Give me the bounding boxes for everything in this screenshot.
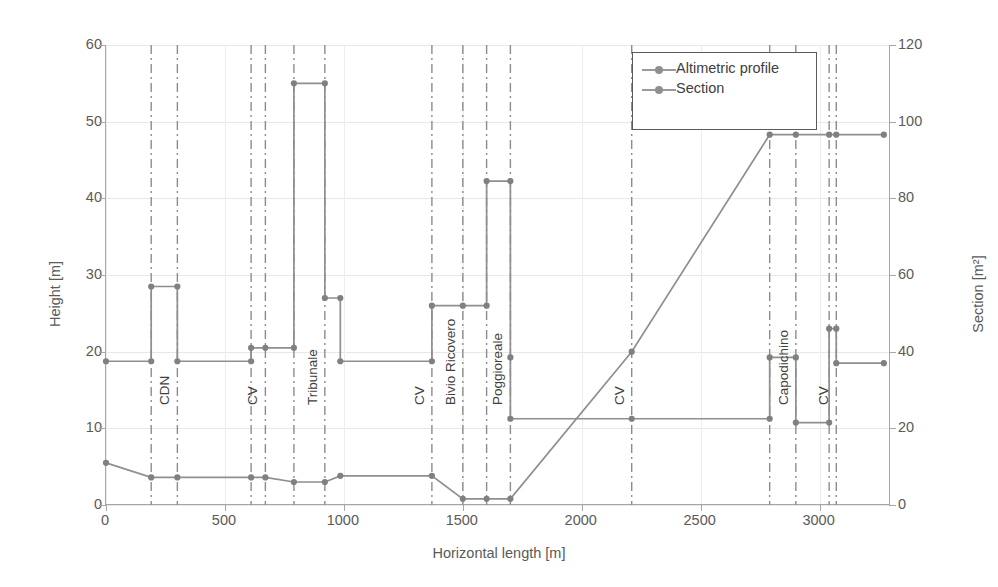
square-marker-icon xyxy=(642,82,676,97)
gridline-horizontal xyxy=(106,505,889,506)
y-axis-right-tick-label: 120 xyxy=(898,37,948,52)
station-label: CDN xyxy=(157,376,172,405)
altimetric-section-chart: Height [m] Section [m²] Horizontal lengt… xyxy=(0,0,998,587)
y-axis-left-tick xyxy=(99,275,106,276)
station-label: Capodichino xyxy=(776,330,791,405)
y-axis-left-tick-label: 0 xyxy=(52,497,102,512)
y-axis-left-tick xyxy=(99,428,106,429)
legend-label: Altimetric profile xyxy=(676,60,779,77)
legend-item-altimetric-profile: Altimetric profile xyxy=(642,60,807,77)
y-axis-right-tick-label: 80 xyxy=(898,190,948,205)
y-axis-left-tick-label: 10 xyxy=(52,420,102,435)
x-axis-tick-label: 2000 xyxy=(551,513,611,528)
x-axis-tick-label: 1500 xyxy=(432,513,492,528)
y-axis-left-tick xyxy=(99,45,106,46)
y-axis-left-tick xyxy=(99,198,106,199)
station-label: CV xyxy=(816,386,831,405)
x-axis-tick xyxy=(820,504,821,511)
x-axis-tick xyxy=(344,504,345,511)
x-axis-tick xyxy=(106,504,107,511)
station-label: CV xyxy=(245,386,260,405)
station-label: Bivio Ricovero xyxy=(443,319,458,405)
station-label: CV xyxy=(412,386,427,405)
legend-item-section: Section xyxy=(642,80,807,97)
x-axis-tick xyxy=(463,504,464,511)
y-axis-left-tick-label: 60 xyxy=(52,37,102,52)
y-axis-left-tick-label: 30 xyxy=(52,267,102,282)
x-axis-tick xyxy=(701,504,702,511)
x-axis-tick-label: 0 xyxy=(75,513,135,528)
y-axis-right-tick-label: 40 xyxy=(898,344,948,359)
legend-label: Section xyxy=(676,80,724,97)
y-axis-left-tick xyxy=(99,122,106,123)
y-axis-right-tick-label: 100 xyxy=(898,114,948,129)
y-axis-left-tick xyxy=(99,505,106,506)
station-label: Poggioreale xyxy=(490,333,505,405)
y-axis-left-tick xyxy=(99,352,106,353)
station-label: Tribunale xyxy=(305,349,320,405)
x-axis-tick-label: 500 xyxy=(194,513,254,528)
x-axis-title: Horizontal length [m] xyxy=(0,545,998,561)
y-axis-right-title: Section [m²] xyxy=(970,255,986,332)
chart-legend: Altimetric profile Section xyxy=(632,52,817,130)
y-axis-left-tick-label: 50 xyxy=(52,114,102,129)
x-axis-tick-label: 1000 xyxy=(313,513,373,528)
y-axis-right-tick-label: 60 xyxy=(898,267,948,282)
y-axis-left-tick-label: 20 xyxy=(52,344,102,359)
y-axis-right-tick-label: 0 xyxy=(898,497,948,512)
y-axis-left-tick-label: 40 xyxy=(52,190,102,205)
x-axis-tick-label: 2500 xyxy=(670,513,730,528)
x-axis-tick xyxy=(582,504,583,511)
y-axis-right-tick xyxy=(889,505,896,506)
circle-marker-icon xyxy=(642,62,676,77)
x-axis-tick xyxy=(225,504,226,511)
station-label: CV xyxy=(612,386,627,405)
x-axis-tick-label: 3000 xyxy=(789,513,849,528)
y-axis-right-tick-label: 20 xyxy=(898,420,948,435)
